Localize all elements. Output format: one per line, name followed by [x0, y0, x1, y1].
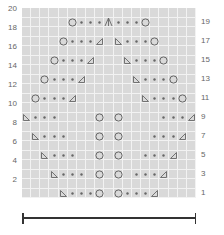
grid-cell — [77, 46, 86, 56]
grid-cell — [95, 46, 104, 56]
grid-cell — [159, 8, 168, 18]
grid-cell — [159, 46, 168, 56]
grid-cell — [86, 151, 95, 161]
grid-cell — [49, 37, 58, 47]
yarn-over-icon — [95, 132, 104, 142]
grid-cell — [123, 27, 132, 37]
grid-cell — [169, 84, 178, 94]
right-decrease-icon — [187, 113, 196, 123]
yarn-over-icon — [31, 94, 40, 104]
grid-cell — [141, 179, 150, 189]
grid-cell — [187, 189, 196, 199]
grid-cell — [95, 103, 104, 113]
grid-cell — [169, 189, 178, 199]
grid-cell — [77, 132, 86, 142]
grid-cell — [123, 8, 132, 18]
grid-cell — [104, 56, 113, 66]
grid-cell — [95, 56, 104, 66]
grid-cell — [187, 94, 196, 104]
grid-cell — [86, 103, 95, 113]
grid-cell — [77, 94, 86, 104]
grid-cell — [178, 84, 187, 94]
grid-cell — [141, 122, 150, 132]
grid-cell — [31, 151, 40, 161]
grid-cell — [49, 160, 58, 170]
knit-dot-icon — [59, 132, 68, 142]
grid-cell — [104, 37, 113, 47]
knitting-chart-grid — [22, 8, 196, 198]
grid-cell — [123, 141, 132, 151]
row-number-right: 15 — [201, 55, 215, 64]
knit-dot-icon — [49, 132, 58, 142]
knit-dot-icon — [150, 94, 159, 104]
grid-cell — [31, 179, 40, 189]
grid-cell — [169, 65, 178, 75]
right-decrease-icon — [169, 151, 178, 161]
grid-cell — [77, 65, 86, 75]
grid-cell — [31, 56, 40, 66]
grid-cell — [150, 179, 159, 189]
grid-cell — [40, 122, 49, 132]
grid-cell — [178, 46, 187, 56]
knit-dot-icon — [141, 56, 150, 66]
knit-dot-icon — [49, 151, 58, 161]
row-number-left: 8 — [3, 118, 17, 127]
grid-cell — [141, 65, 150, 75]
grid-cell — [150, 27, 159, 37]
grid-cell — [132, 141, 141, 151]
row-number-left: 6 — [3, 137, 17, 146]
grid-cell — [40, 8, 49, 18]
knit-dot-icon — [123, 189, 132, 199]
knit-dot-icon — [77, 37, 86, 47]
grid-cell — [22, 65, 31, 75]
yarn-over-icon — [95, 113, 104, 123]
knit-dot-icon — [169, 132, 178, 142]
grid-cell — [132, 103, 141, 113]
grid-cell — [22, 160, 31, 170]
grid-cell — [159, 122, 168, 132]
grid-cell — [178, 8, 187, 18]
grid-cell — [22, 37, 31, 47]
knit-dot-icon — [132, 170, 141, 180]
grid-cell — [132, 122, 141, 132]
knit-dot-icon — [123, 18, 132, 28]
grid-cell — [104, 8, 113, 18]
grid-cell — [132, 65, 141, 75]
grid-cell — [114, 160, 123, 170]
grid-cell — [123, 75, 132, 85]
knit-dot-icon — [150, 132, 159, 142]
grid-cell — [59, 84, 68, 94]
grid-cell — [22, 8, 31, 18]
grid-cell — [31, 18, 40, 28]
grid-cell — [95, 179, 104, 189]
grid-cell — [159, 103, 168, 113]
grid-cell — [31, 46, 40, 56]
grid-cell — [187, 170, 196, 180]
grid-cell — [150, 113, 159, 123]
grid-cell — [40, 27, 49, 37]
bracket-right-tick — [195, 213, 197, 224]
grid-cell — [123, 84, 132, 94]
grid-cell — [104, 141, 113, 151]
grid-cell — [114, 122, 123, 132]
grid-cell — [169, 18, 178, 28]
grid-cell — [132, 94, 141, 104]
knit-dot-icon — [123, 37, 132, 47]
grid-cell — [59, 65, 68, 75]
grid-cell — [59, 103, 68, 113]
knit-dot-icon — [49, 75, 58, 85]
grid-cell — [22, 84, 31, 94]
grid-cell — [95, 84, 104, 94]
grid-cell — [77, 8, 86, 18]
grid-cell — [114, 8, 123, 18]
grid-cell — [49, 122, 58, 132]
grid-cell — [86, 75, 95, 85]
grid-cell — [169, 160, 178, 170]
grid-cell — [49, 189, 58, 199]
grid-cell — [178, 122, 187, 132]
yarn-over-icon — [95, 170, 104, 180]
knit-dot-icon — [59, 75, 68, 85]
grid-cell — [132, 46, 141, 56]
grid-cell — [159, 179, 168, 189]
grid-cell — [169, 179, 178, 189]
